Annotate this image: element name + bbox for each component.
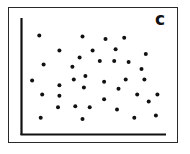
data-point [57,83,61,87]
data-point [102,97,106,101]
data-point [115,108,119,112]
data-point [117,87,121,91]
data-point [91,49,95,53]
data-point [42,62,46,66]
data-point [78,55,82,59]
data-point [142,78,146,82]
data-point [147,100,151,104]
data-point [88,105,92,109]
data-point [104,37,108,41]
data-point [39,116,43,120]
panel-label: c [155,11,165,28]
data-point [37,33,41,37]
data-points [30,33,159,121]
data-point [122,36,126,40]
data-point [57,94,61,98]
data-point [102,80,106,84]
data-point [70,65,74,69]
data-point [132,116,136,120]
data-point [30,79,34,83]
data-point [72,78,76,82]
data-point [124,78,128,82]
data-point [135,93,139,97]
data-point [127,60,131,64]
data-point [73,104,77,108]
data-point [57,49,61,53]
data-point [144,52,148,56]
data-point [81,35,85,39]
data-point [83,74,87,78]
data-point [56,105,60,109]
data-point [82,86,86,90]
data-point [140,67,144,71]
data-point [155,93,159,97]
data-point [114,47,118,51]
data-point [98,59,102,63]
data-point [40,93,44,97]
data-point [112,59,116,63]
data-point [81,117,85,121]
data-point [154,113,158,117]
